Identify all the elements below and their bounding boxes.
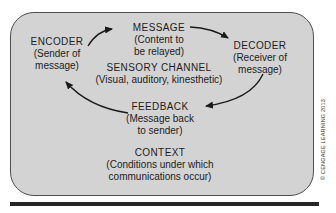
node-encoder-title: ENCODER: [7, 36, 107, 48]
node-encoder-desc-line1: (Sender of: [7, 48, 107, 60]
node-context-desc-line1: (Conditions under which: [85, 159, 235, 171]
node-context-title: CONTEXT: [85, 147, 235, 159]
node-message-desc-line1: (Content to: [109, 34, 209, 46]
copyright-credit: © CENGAGE LEARNING 2013: [320, 104, 326, 180]
node-feedback-desc-line2: to sender): [110, 125, 210, 137]
node-sensory-channel-desc-line1: (Visual, auditory, kinesthetic): [69, 74, 249, 86]
node-message-desc-line2: be relayed): [109, 46, 209, 58]
node-message: MESSAGE (Content to be relayed): [109, 22, 209, 58]
node-feedback-desc-line1: (Message back: [110, 113, 210, 125]
node-decoder-title: DECODER: [210, 40, 310, 52]
node-sensory-channel-title: SENSORY CHANNEL: [69, 62, 249, 74]
communication-cycle-figure: MESSAGE (Content to be relayed) ENCODER …: [0, 0, 336, 213]
node-feedback-title: FEEDBACK: [110, 101, 210, 113]
node-context: CONTEXT (Conditions under which communic…: [85, 147, 235, 183]
node-context-desc-line2: communications occur): [85, 171, 235, 183]
node-sensory-channel: SENSORY CHANNEL (Visual, auditory, kines…: [69, 62, 249, 86]
bottom-rule: [10, 202, 319, 206]
node-message-title: MESSAGE: [109, 22, 209, 34]
node-feedback: FEEDBACK (Message back to sender): [110, 101, 210, 137]
